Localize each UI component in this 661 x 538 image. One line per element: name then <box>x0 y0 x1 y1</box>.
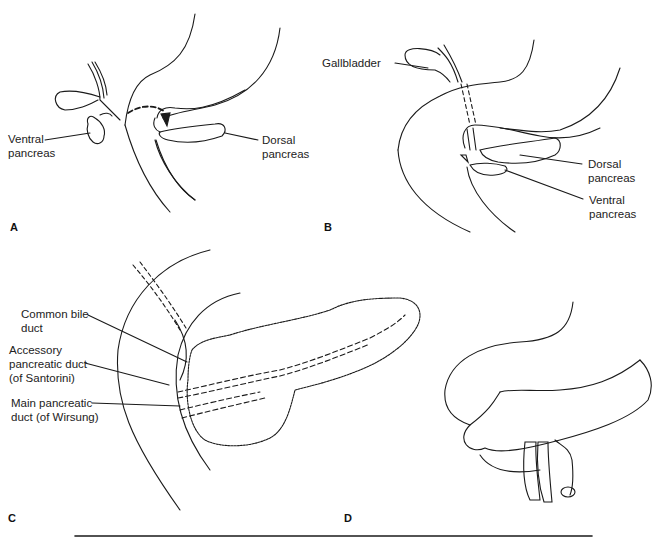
label-c-main-pancreatic-duct: Main pancreatic duct (of Wirsung) <box>11 396 99 424</box>
label-c-accessory-pancreatic-duct: Accessory pancreatic duct (of Santorini) <box>9 343 87 385</box>
label-b-dorsal-pancreas: Dorsal pancreas <box>588 157 635 185</box>
leader-lines <box>45 63 583 406</box>
label-b-ventral-pancreas: Ventral pancreas <box>589 193 636 221</box>
panel-d-drawing <box>445 302 651 502</box>
panel-a-drawing <box>55 14 280 212</box>
label-c-common-bile-duct: Common bile duct <box>21 307 89 335</box>
anatomy-illustration <box>0 0 661 538</box>
panel-letter-a: A <box>10 221 18 233</box>
panel-letter-c: C <box>8 512 16 524</box>
label-a-dorsal-pancreas: Dorsal pancreas <box>262 133 309 161</box>
label-b-gallbladder: Gallbladder <box>322 56 381 70</box>
label-a-ventral-pancreas: Ventral pancreas <box>8 132 55 160</box>
panel-letter-d: D <box>344 512 352 524</box>
panel-letter-b: B <box>324 221 332 233</box>
panel-c-drawing <box>117 250 420 510</box>
panel-b-drawing <box>398 40 620 232</box>
